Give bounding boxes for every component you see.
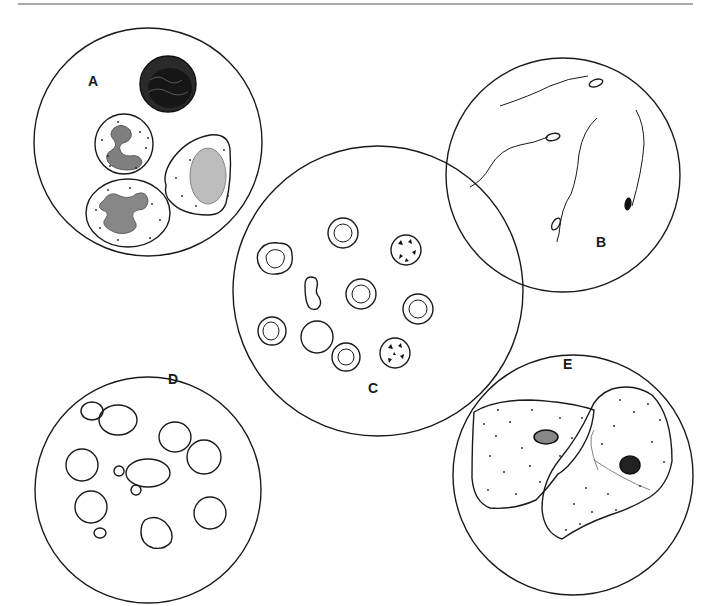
rbc-crenated-2: [257, 243, 292, 274]
field-circle-e: [453, 355, 693, 595]
sperm-3: [550, 118, 597, 242]
yeast-cell-1: [66, 449, 98, 481]
dark-leukocyte: [140, 56, 196, 112]
field-circle-b: [446, 58, 680, 292]
rbc-dysmorphic-2: [380, 338, 410, 368]
rbc-dysmorphic-1: [391, 235, 421, 265]
yeast-budding-1: [81, 402, 137, 435]
sperm-1: [500, 76, 604, 106]
panel-a: A: [34, 28, 262, 256]
panel-c: C: [233, 146, 523, 436]
squamous-cell-1: [472, 400, 594, 508]
panel-label-c: C: [368, 380, 378, 396]
panel-label-a: A: [88, 73, 98, 89]
rbc-ghost-cell: [301, 321, 333, 353]
squamous-cell-2: [542, 387, 672, 539]
renal-epithelial-cell: [165, 135, 231, 215]
rbc-crenated-4: [403, 294, 433, 324]
panel-e: E: [453, 355, 693, 595]
rbc-crenated-3: [346, 279, 376, 309]
sperm-2: [470, 132, 561, 187]
panel-b: B: [446, 58, 680, 292]
panel-label-b: B: [596, 234, 606, 250]
yeast-budding-2: [159, 422, 221, 474]
panel-label-d: D: [168, 371, 178, 387]
rbc-dumbbell: [305, 277, 321, 309]
yeast-cell-3: [194, 497, 226, 529]
sperm-4: [623, 110, 644, 211]
rbc-crenated-1: [328, 218, 358, 248]
rbc-crenated-5: [258, 317, 286, 345]
field-circle-d: [35, 377, 261, 603]
rbc-crenated-6: [332, 343, 360, 371]
yeast-budding-3: [114, 459, 170, 495]
neutrophil-2: [86, 179, 170, 247]
panel-label-e: E: [563, 356, 572, 372]
yeast-cell-2: [141, 517, 172, 548]
neutrophil-1: [95, 114, 153, 174]
yeast-budding-4: [75, 491, 107, 538]
microscopy-figure: A: [0, 0, 713, 606]
panel-d: D: [35, 371, 261, 603]
